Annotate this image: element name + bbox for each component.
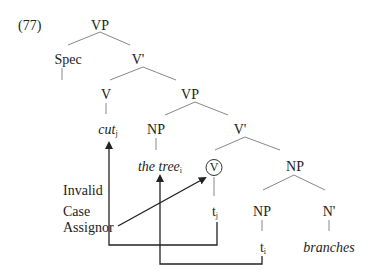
- node-vbar-1: V': [132, 52, 145, 68]
- trace-j: tj: [212, 204, 218, 224]
- node-np-3: NP: [253, 204, 271, 220]
- trace-i: ti: [260, 240, 266, 260]
- node-vp-root: VP: [91, 18, 109, 34]
- node-v: V: [101, 87, 111, 103]
- node-v-circled: V: [206, 159, 223, 176]
- annotation-assignor: Assignor: [63, 220, 114, 236]
- annotation-case: Case: [63, 204, 90, 220]
- node-nbar: N': [323, 204, 336, 220]
- word-cut: cutj: [98, 122, 117, 142]
- node-vp-2: VP: [181, 87, 199, 103]
- node-vbar-2: V': [234, 122, 247, 138]
- circle-mark-icon: V: [206, 159, 223, 176]
- node-np-1: NP: [147, 122, 165, 138]
- tree-edges: [0, 0, 371, 274]
- node-spec: Spec: [54, 52, 81, 68]
- annotation-invalid: Invalid: [63, 183, 103, 199]
- word-the-tree: the treei: [138, 159, 182, 179]
- word-branches: branches: [303, 240, 354, 256]
- node-np-2: NP: [286, 159, 304, 175]
- example-number: (77): [18, 18, 41, 34]
